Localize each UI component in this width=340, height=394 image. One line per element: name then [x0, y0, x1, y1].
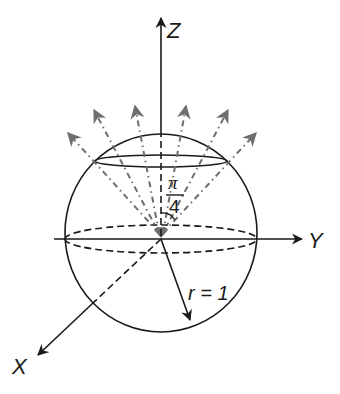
emission-rays [68, 106, 256, 233]
ray-3 [135, 106, 159, 233]
x-axis-label: X [11, 354, 28, 379]
angle-numerator: π [168, 172, 178, 193]
radius-arrow [161, 239, 190, 320]
y-axis-label: Y [308, 228, 324, 253]
x-axis [38, 303, 93, 355]
sphere-diagram: Z Y X π 4 r = 1 [0, 0, 340, 394]
x-axis-inner [93, 239, 161, 303]
z-axis-label: Z [166, 18, 182, 43]
angle-denominator: 4 [169, 196, 180, 217]
radius-label: r = 1 [188, 282, 229, 304]
